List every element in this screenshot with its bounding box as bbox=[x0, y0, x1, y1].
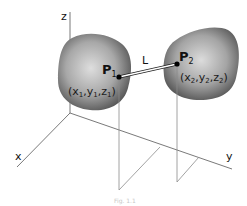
p2-subscript: 2 bbox=[189, 57, 194, 66]
segment-label: L bbox=[142, 54, 149, 67]
figure-caption: Fig. 1.1 bbox=[114, 197, 136, 205]
p2-foot-line bbox=[177, 157, 199, 182]
y-axis-label: y bbox=[226, 150, 233, 163]
z-axis-label: z bbox=[61, 10, 67, 23]
y-axis bbox=[70, 113, 232, 169]
x-axis bbox=[17, 113, 70, 167]
p1-name: P bbox=[102, 62, 112, 77]
x-axis-label: x bbox=[15, 150, 22, 163]
p1-subscript: 1 bbox=[112, 70, 117, 79]
p2-name: P bbox=[179, 49, 189, 64]
distance-diagram: z x y L P1 (x1,y1,z1) P2 (x2,y2,z2) Fig.… bbox=[0, 0, 247, 206]
point-p1 bbox=[116, 74, 121, 79]
p1-foot-line bbox=[119, 147, 160, 190]
